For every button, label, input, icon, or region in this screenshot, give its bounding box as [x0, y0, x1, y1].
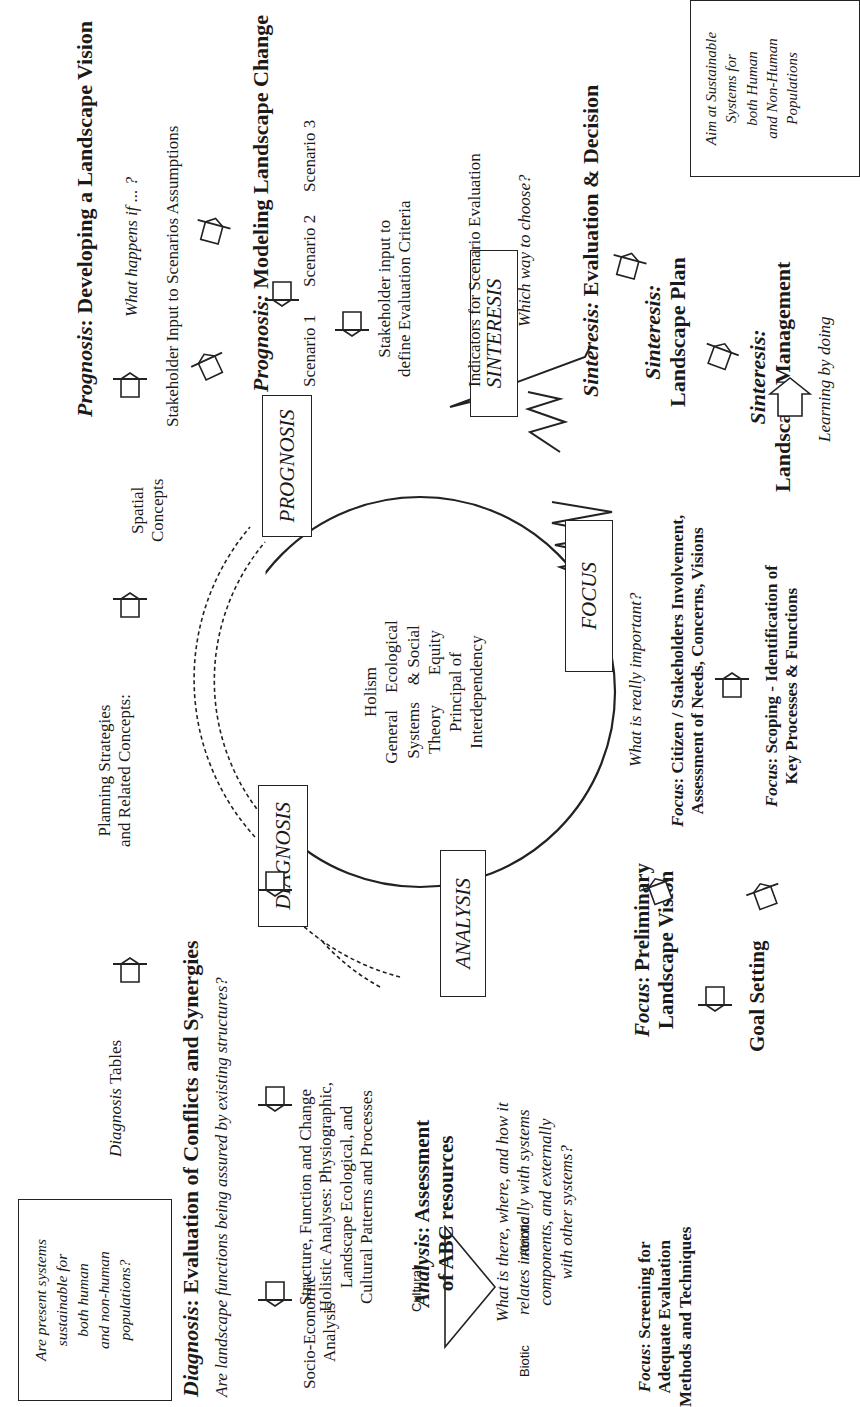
- plan-label: Sinteresis:: [640, 257, 665, 407]
- criteria-line: define Evaluation Criteria: [395, 200, 415, 377]
- phase-diagnosis-label: DIAGNOSIS: [271, 802, 296, 909]
- focus-rest: : Screening for: [635, 1241, 654, 1348]
- prognosis-modeling-heading: Prognosis: Modeling Landscape Change: [248, 15, 273, 392]
- heading-prefix: Prognosis:: [248, 294, 273, 392]
- indicators-scenario-evaluation: Indicators for Scenario Evaluation: [465, 153, 485, 387]
- triangle-biotic: Biotic: [518, 1345, 533, 1377]
- holistic-line: Structure, Function and Change: [296, 1082, 316, 1312]
- tables-prefix: Diagnosis: [106, 1088, 125, 1157]
- focus-rest: : Citizen / Stakeholders Involvement,: [668, 515, 687, 784]
- focus-rest: : Scoping - Identification of: [762, 565, 781, 763]
- question-line: components, and externally: [535, 1102, 556, 1322]
- present-systems-box: Are present systems sustainable for both…: [18, 1199, 172, 1401]
- heading-rest: : Evaluation of Conflicts and Synergies: [178, 940, 203, 1306]
- triangle-cultural: Cultural: [410, 1267, 425, 1312]
- focus-line2: Landscape Vision: [654, 863, 678, 1037]
- stakeholder-criteria: Stakeholder input to define Evaluation C…: [375, 200, 414, 377]
- focus-line3: Methods and Techniques: [676, 1227, 696, 1407]
- diagnosis-question: Are landscape functions being assured by…: [212, 977, 232, 1397]
- box-line: Are present systems: [31, 1200, 52, 1400]
- holistic-line: Landscape Ecological, and: [337, 1082, 357, 1312]
- focus-preliminary-vision: Focus: Preliminary Landscape Vision: [630, 863, 678, 1037]
- spatial-line: Concepts: [148, 479, 168, 542]
- center-line: Principal of: [445, 587, 466, 797]
- phase-prognosis: PROGNOSIS: [262, 395, 312, 537]
- scenario-3: Scenario 3: [300, 120, 320, 192]
- box-line: Populations: [782, 1, 802, 176]
- heading-rest: Modeling Landscape Change: [248, 15, 273, 294]
- focus-prefix: Focus: [762, 764, 781, 807]
- focus-citizen: Focus: Citizen / Stakeholders Involvemen…: [668, 515, 707, 827]
- center-line: Systems & Social: [403, 587, 424, 797]
- focus-prefix: Focus: [635, 1349, 654, 1392]
- heading-line2: of ABC resources: [434, 1120, 458, 1307]
- question-line: What is there, where, and how it: [492, 1102, 513, 1322]
- scenario-2: Scenario 2: [300, 215, 320, 287]
- box-line: both human: [73, 1200, 94, 1400]
- triangle-abiotic: Abiotic: [518, 1218, 533, 1257]
- holistic-analyses: Structure, Function and Change Holistic …: [296, 1082, 378, 1312]
- heading-rest: : Developing a Landscape Vision: [72, 21, 97, 327]
- center-line: Theory Equity: [424, 587, 445, 797]
- aim-sustainable-box: Aim at Sustainable Systems for both Huma…: [690, 0, 860, 177]
- heading-rest: Evaluation & Decision: [578, 85, 603, 302]
- landscape-plan: Sinteresis: Landscape Plan: [640, 257, 691, 407]
- box-line: both Human: [742, 1, 762, 176]
- question-line: with other systems?: [556, 1102, 577, 1322]
- box-line: and non-human: [94, 1200, 115, 1400]
- phase-analysis-label: ANALYSIS: [451, 878, 476, 969]
- focus-line2: Adequate Evaluation: [655, 1227, 675, 1407]
- center-holism: Holism: [360, 587, 381, 797]
- prognosis-vision-heading: Prognosis: Developing a Landscape Vision: [72, 21, 97, 417]
- cycle-center-text: Holism General Ecological Systems & Soci…: [360, 587, 488, 797]
- heading-rest: : Assessment: [410, 1120, 434, 1234]
- landscape-management: Sinteresis: Landscape Management: [745, 262, 796, 492]
- center-line: Interdependency: [466, 587, 487, 797]
- phase-sinteresis-label: SINTERESIS: [482, 279, 507, 389]
- focus-rest: : Preliminary: [630, 863, 654, 983]
- scenario-1: Scenario 1: [300, 315, 320, 387]
- criteria-line: Stakeholder input to: [375, 200, 395, 377]
- focus-scoping: Focus: Scoping - Identification of Key P…: [762, 565, 801, 807]
- heading-prefix: Diagnosis: [178, 1307, 203, 1397]
- diagnosis-heading: Diagnosis: Evaluation of Conflicts and S…: [178, 940, 203, 1397]
- phase-focus: FOCUS: [565, 520, 613, 672]
- box-line: and Non-Human: [762, 1, 782, 176]
- box-line: populations?: [115, 1200, 136, 1400]
- analysis-question: What is there, where, and how it relates…: [492, 1102, 577, 1322]
- holistic-line: Cultural Patterns and Processes: [357, 1082, 377, 1312]
- focus-line2: Assessment of Needs, Concerns, Visions: [688, 515, 708, 827]
- learning-by-doing: Learning by doing: [815, 316, 835, 442]
- question-line: relates internally with systems: [513, 1102, 534, 1322]
- center-line: General Ecological: [381, 587, 402, 797]
- goal-setting: Goal Setting: [745, 941, 769, 1052]
- spatial-line: Spatial: [128, 479, 148, 542]
- box-line: sustainable for: [52, 1200, 73, 1400]
- tables-rest: Tables: [106, 1040, 125, 1088]
- heading-prefix: Sinteresis:: [578, 302, 603, 397]
- mgmt-title: Landscape Management: [770, 262, 795, 492]
- planning-strategies: Planning Strategies and Related Concepts…: [95, 694, 134, 847]
- phase-focus-label: FOCUS: [577, 562, 602, 630]
- sinteresis-eval-heading: Sinteresis: Evaluation & Decision: [578, 85, 603, 397]
- mgmt-label: Sinteresis:: [745, 262, 770, 492]
- box-line: Aim at Sustainable: [701, 1, 721, 176]
- phase-analysis: ANALYSIS: [440, 850, 486, 997]
- holistic-line: Holistic Analyses: Physiographic,: [316, 1082, 336, 1312]
- heading-prefix: Prognosis: [72, 327, 97, 417]
- focus-prefix: Focus: [630, 983, 654, 1037]
- planning-line: and Related Concepts:: [115, 694, 135, 847]
- box-line: Systems for: [721, 1, 741, 176]
- which-way-to-choose: Which way to choose?: [515, 175, 535, 328]
- focus-prefix: Focus: [668, 784, 687, 827]
- stakeholder-input-assumptions: Stakeholder Input to Scenarios Assumptio…: [163, 126, 183, 427]
- spatial-concepts: Spatial Concepts: [128, 479, 167, 542]
- diagnosis-tables-label: Diagnosis Tables: [106, 1040, 126, 1157]
- what-happens-if: What happens if ... ?: [122, 177, 142, 317]
- phase-diagnosis: DIAGNOSIS: [258, 785, 308, 927]
- phase-prognosis-label: PROGNOSIS: [275, 409, 300, 522]
- focus-line2: Key Processes & Functions: [782, 565, 802, 807]
- focus-screening: Focus: Screening for Adequate Evaluation…: [635, 1227, 696, 1407]
- planning-line: Planning Strategies: [95, 694, 115, 847]
